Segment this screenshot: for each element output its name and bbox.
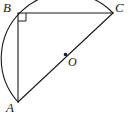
center-label-o: O — [68, 56, 77, 69]
vertex-label-b: B — [3, 1, 11, 14]
vertex-label-c: C — [115, 1, 124, 14]
center-point-dot — [64, 53, 68, 57]
segment-ac — [18, 13, 113, 102]
vertex-label-a: A — [6, 101, 14, 114]
figure-canvas — [0, 0, 129, 117]
geometry-figure: B C A O — [0, 0, 129, 117]
